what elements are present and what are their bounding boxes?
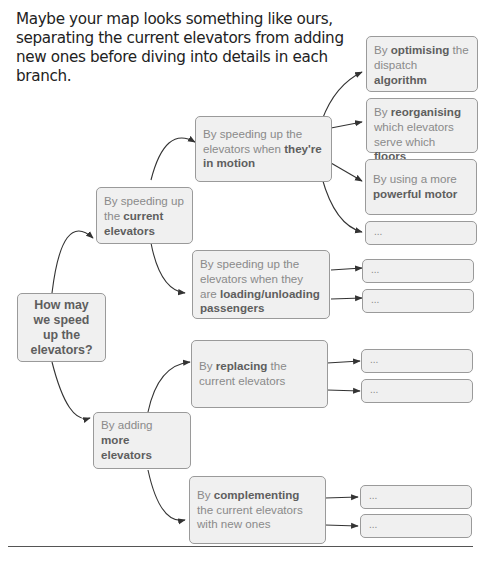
placeholder-node: ... bbox=[360, 485, 472, 509]
node-current-elevators: By speeding up the current elevators bbox=[96, 187, 193, 244]
node-replacing: By replacing the current elevators bbox=[191, 340, 328, 408]
node-more-elevators: By adding more elevators bbox=[93, 412, 191, 469]
placeholder-node: ... bbox=[360, 514, 472, 538]
placeholder-node: ... bbox=[365, 221, 477, 245]
node-in-motion: By speeding up the elevators when they'r… bbox=[195, 116, 332, 182]
node-optimising: By optimising the dispatch algorithm bbox=[366, 36, 478, 92]
bottom-divider bbox=[8, 546, 473, 547]
node-powerful-motor: By using a more powerful motor bbox=[365, 159, 477, 215]
placeholder-node: ... bbox=[361, 349, 473, 373]
node-reorganising: By reorganising which elevators serve wh… bbox=[366, 98, 478, 153]
root-question-text: How may we speed up the elevators? bbox=[25, 298, 98, 358]
placeholder-node: ... bbox=[361, 379, 473, 403]
node-complementing: By complementing the current elevators w… bbox=[189, 476, 326, 544]
root-question-node: How may we speed up the elevators? bbox=[17, 293, 106, 362]
node-loading-unloading: By speeding up the elevators when they a… bbox=[192, 250, 330, 319]
placeholder-node: ... bbox=[362, 289, 474, 313]
placeholder-node: ... bbox=[362, 259, 474, 283]
